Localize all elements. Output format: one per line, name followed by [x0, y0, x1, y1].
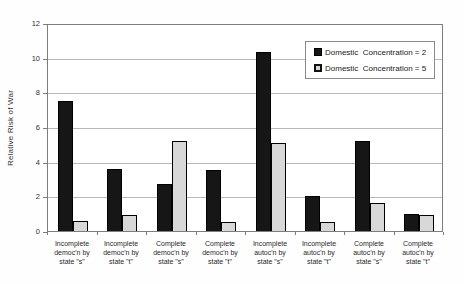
xtick-mark-4: [245, 232, 246, 235]
legend-label-concentration-2: Domestic Concentration = 2: [325, 48, 426, 57]
bar-series1-group8: [404, 214, 419, 231]
legend-label-concentration-5: Domestic Concentration = 5: [325, 64, 426, 73]
bar-series2-group1: [73, 221, 88, 231]
xlabel-line: Complete: [388, 239, 448, 248]
xlabel-line: state "t": [388, 257, 448, 266]
ytick-mark-6: [43, 128, 47, 129]
bar-series2-group2: [122, 215, 137, 231]
bar-series2-group5: [271, 143, 286, 231]
ytick-mark-10: [43, 59, 47, 60]
xtick-mark-0: [47, 232, 48, 235]
legend-swatch-gray-icon: [314, 64, 322, 72]
bar-series2-group3: [172, 141, 187, 231]
legend-swatch-black-icon: [314, 48, 322, 56]
ytick-label-8: 8: [20, 88, 40, 97]
ytick-label-4: 4: [20, 158, 40, 167]
bar-series2-group7: [370, 203, 385, 231]
bar-series1-group3: [157, 184, 172, 231]
legend-item-concentration-2: Domestic Concentration = 2: [314, 48, 434, 57]
bar-series1-group7: [355, 141, 370, 231]
relative-risk-of-war-chart: Relative Risk of War 024681012 Incomplet…: [0, 0, 464, 284]
xtick-mark-1: [97, 232, 98, 235]
bar-series2-group8: [419, 215, 434, 231]
legend: Domestic Concentration = 2 Domestic Conc…: [305, 41, 435, 79]
gridline-y-8: [48, 93, 442, 94]
y-axis-title: Relative Risk of War: [6, 90, 15, 166]
ytick-label-0: 0: [20, 227, 40, 236]
legend-item-concentration-5: Domestic Concentration = 5: [314, 64, 434, 73]
xtick-mark-2: [146, 232, 147, 235]
bar-series1-group6: [305, 196, 320, 231]
xlabel-group8: Completeautoc'n bystate "t": [388, 239, 448, 266]
ytick-mark-4: [43, 163, 47, 164]
xtick-mark-5: [295, 232, 296, 235]
xtick-mark-3: [196, 232, 197, 235]
xtick-mark-8: [443, 232, 444, 235]
gridline-y-6: [48, 128, 442, 129]
bar-series1-group4: [206, 170, 221, 231]
bar-series1-group1: [58, 101, 73, 231]
ytick-label-12: 12: [20, 19, 40, 28]
ytick-label-10: 10: [20, 54, 40, 63]
ytick-mark-12: [43, 24, 47, 25]
xtick-mark-7: [394, 232, 395, 235]
bar-series1-group2: [107, 169, 122, 231]
xlabel-line: autoc'n by: [388, 248, 448, 257]
bar-series2-group4: [221, 222, 236, 231]
gridline-y-4: [48, 163, 442, 164]
ytick-mark-2: [43, 197, 47, 198]
ytick-label-2: 2: [20, 192, 40, 201]
bar-series1-group5: [256, 52, 271, 231]
ytick-mark-8: [43, 93, 47, 94]
xtick-mark-6: [344, 232, 345, 235]
ytick-label-6: 6: [20, 123, 40, 132]
bar-series2-group6: [320, 222, 335, 231]
